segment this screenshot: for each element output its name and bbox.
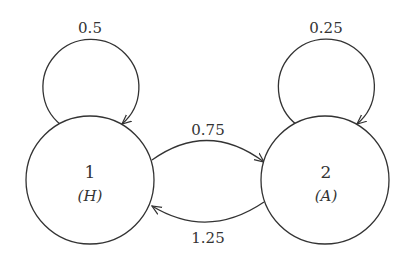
node-2-label: (A) — [315, 187, 338, 205]
edge-self-loop-1 — [43, 39, 139, 125]
edge-1-to-2 — [152, 140, 264, 162]
edge-self-loop-2 — [278, 39, 374, 125]
node-1-number: 1 — [85, 162, 96, 182]
node-2-number: 2 — [321, 162, 332, 182]
edge-label-2-to-1: 1.25 — [191, 229, 224, 247]
edge-2-to-1 — [152, 202, 264, 222]
edge-label-self-2: 0.25 — [309, 19, 342, 37]
edge-label-1-to-2: 0.75 — [191, 121, 224, 139]
node-1-label: (H) — [78, 187, 103, 205]
edge-label-self-1: 0.5 — [78, 19, 102, 37]
